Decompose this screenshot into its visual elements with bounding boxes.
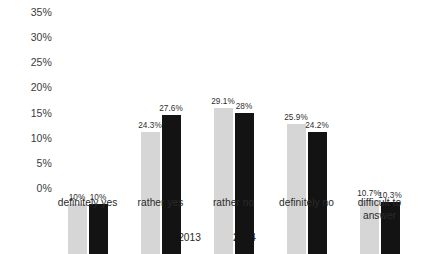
bar-value-label: 28% xyxy=(236,102,253,111)
bar-2014[interactable] xyxy=(89,204,108,254)
bar-group: 24.3%27.6% xyxy=(124,78,197,254)
bar-wrapper: 24.3% xyxy=(141,78,160,254)
bar-value-label: 24.3% xyxy=(138,121,161,130)
bar-wrapper: 10% xyxy=(68,78,87,254)
x-axis-category-label: definitely no xyxy=(270,196,343,209)
y-axis-tick-label: 20% xyxy=(0,82,52,93)
x-axis-category-label: rather yes xyxy=(124,196,197,209)
bar-2014[interactable] xyxy=(308,132,327,254)
bar-wrapper: 29.1% xyxy=(214,78,233,254)
bar-chart: 35%30%25%20%15%10%5%0% 20132014 10%10%de… xyxy=(0,0,422,254)
bar-group: 10%10% xyxy=(51,78,124,254)
bar-group: 25.9%24.2% xyxy=(270,78,343,254)
bar-wrapper: 25.9% xyxy=(287,78,306,254)
y-axis-tick-label: 30% xyxy=(0,32,52,43)
bar-wrapper: 10% xyxy=(89,78,108,254)
bar-value-label: 25.9% xyxy=(284,113,307,122)
bar-group: 10.7%10.3% xyxy=(343,78,416,254)
bar-pair: 25.9%24.2% xyxy=(270,78,343,254)
bar-value-label: 24.2% xyxy=(305,121,328,130)
bar-group: 29.1%28% xyxy=(197,78,270,254)
bar-2014[interactable] xyxy=(235,113,254,254)
bar-wrapper: 27.6% xyxy=(162,78,181,254)
bar-wrapper: 24.2% xyxy=(308,78,327,254)
bar-wrapper: 28% xyxy=(235,78,254,254)
bar-wrapper: 10.7% xyxy=(360,78,379,254)
y-axis-tick-label: 0% xyxy=(0,183,52,194)
bar-2014[interactable] xyxy=(162,115,181,254)
bar-value-label: 29.1% xyxy=(211,97,234,106)
y-axis: 35%30%25%20%15%10%5%0% xyxy=(0,0,52,254)
y-axis-tick-label: 15% xyxy=(0,107,52,118)
y-axis-tick-label: 35% xyxy=(0,7,52,18)
bar-2013[interactable] xyxy=(287,124,306,254)
bar-value-label: 27.6% xyxy=(159,104,182,113)
bar-2013[interactable] xyxy=(141,132,160,254)
x-axis-category-label: rather no xyxy=(197,196,270,209)
bar-pair: 10.7%10.3% xyxy=(343,78,416,254)
bar-pair: 29.1%28% xyxy=(197,78,270,254)
bar-wrapper: 10.3% xyxy=(381,78,400,254)
x-axis-category-label: definitely yes xyxy=(51,196,124,209)
y-axis-tick-label: 10% xyxy=(0,132,52,143)
bar-pair: 10%10% xyxy=(51,78,124,254)
bar-2013[interactable] xyxy=(68,204,87,254)
y-axis-tick-label: 25% xyxy=(0,57,52,68)
bar-pair: 24.3%27.6% xyxy=(124,78,197,254)
y-axis-tick-label: 5% xyxy=(0,157,52,168)
x-axis-category-label: difficult to answer xyxy=(343,196,416,222)
bar-2013[interactable] xyxy=(214,108,233,254)
